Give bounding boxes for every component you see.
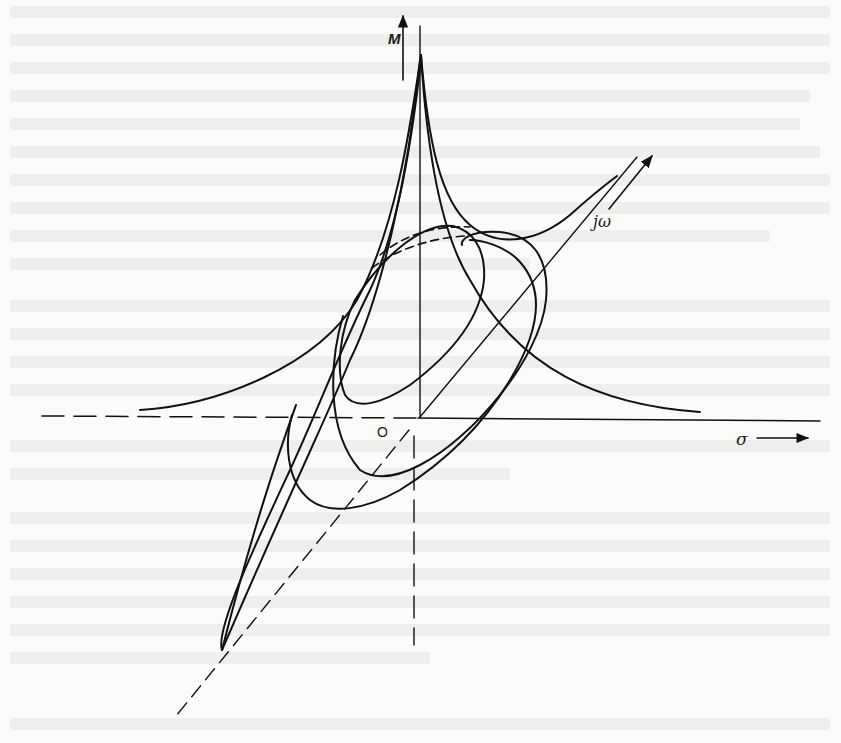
surface-curve-aux: [392, 300, 546, 650]
surface-section-upper-loop: [340, 226, 484, 404]
diagram-page: M jω O σ: [0, 0, 841, 743]
surface-curve-left-tail: [140, 55, 421, 410]
surface-curve-right-rise: [421, 55, 617, 239]
jw-axis: [420, 157, 637, 417]
surface-curve-right-tail: [421, 55, 700, 412]
surface-curve-lower-left: [222, 405, 296, 650]
surface-curve-guide: [225, 70, 421, 655]
surface-curve-left-down: [221, 60, 421, 650]
sigma-axis-label: σ: [736, 429, 748, 449]
surface-section-lower-loop: [333, 232, 546, 477]
origin-label: O: [377, 424, 388, 440]
jw-axis-label: jω: [593, 212, 611, 231]
m-axis-label: M: [388, 30, 401, 47]
magnitude-surface-diagram: [0, 0, 841, 743]
surface-curve-jw-section: [222, 60, 420, 650]
sigma-axis-negative: [42, 416, 416, 418]
